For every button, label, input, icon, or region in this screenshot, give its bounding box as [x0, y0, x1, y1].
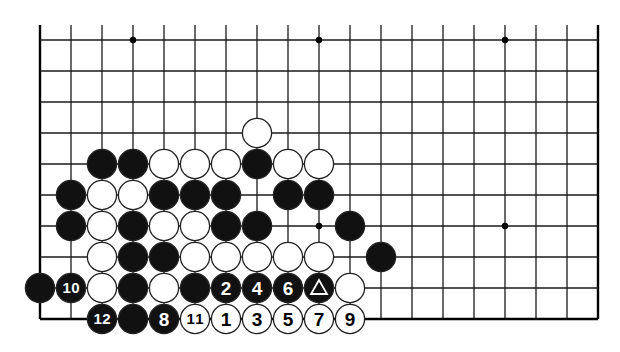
black-stone [180, 273, 209, 302]
stone-circle [335, 273, 364, 302]
move-number-label: 6 [283, 278, 294, 299]
white-stone [211, 242, 240, 271]
stone-circle [180, 180, 209, 209]
black-stone [335, 211, 364, 240]
black-stone [211, 211, 240, 240]
stone-circle [242, 118, 271, 147]
stone-circle [56, 211, 85, 240]
move-number-label: 9 [345, 309, 356, 330]
stone-circle [304, 149, 333, 178]
stone-circle [304, 273, 333, 302]
stone-circle [366, 242, 395, 271]
stone-circle [242, 211, 271, 240]
black-stone: 2 [211, 273, 240, 302]
stone-circle [273, 149, 302, 178]
stone-circle [149, 211, 178, 240]
move-number-label: 11 [187, 310, 204, 327]
white-stone: 7 [304, 304, 333, 333]
move-number-label: 7 [314, 309, 325, 330]
white-stone: 1 [211, 304, 240, 333]
white-stone [304, 242, 333, 271]
stone-circle [87, 242, 116, 271]
stone-circle [149, 149, 178, 178]
stone-circle [149, 180, 178, 209]
move-number-label: 3 [252, 309, 263, 330]
white-stone [180, 242, 209, 271]
white-stone [149, 273, 178, 302]
stone-circle [211, 242, 240, 271]
stone-circle [335, 211, 364, 240]
star-point [502, 37, 508, 43]
stone-circle [118, 211, 147, 240]
star-point [316, 37, 322, 43]
black-stone [87, 149, 116, 178]
white-stone [273, 149, 302, 178]
black-stone [118, 304, 147, 333]
move-number-label: 1 [221, 309, 232, 330]
black-stone [56, 211, 85, 240]
stone-circle [304, 180, 333, 209]
white-stone [149, 149, 178, 178]
white-stone [180, 211, 209, 240]
white-stone [87, 211, 116, 240]
black-stone: 8 [149, 304, 178, 333]
black-stone [118, 273, 147, 302]
stone-circle [180, 211, 209, 240]
black-stone: 10 [56, 273, 85, 302]
stone-circle [180, 273, 209, 302]
stone-circle [118, 242, 147, 271]
go-board-diagram: 102461281113579 [0, 0, 620, 352]
white-stone: 5 [273, 304, 302, 333]
black-stone [118, 242, 147, 271]
star-point [316, 223, 322, 229]
move-number-label: 4 [252, 278, 263, 299]
stone-circle [149, 242, 178, 271]
white-stone [87, 180, 116, 209]
stone-circle [180, 242, 209, 271]
white-stone [273, 242, 302, 271]
black-stone [118, 211, 147, 240]
stone-circle [118, 180, 147, 209]
stone-circle [242, 149, 271, 178]
move-number-label: 12 [94, 310, 111, 327]
stone-circle [304, 242, 333, 271]
white-stone: 11 [180, 304, 209, 333]
stone-circle [273, 180, 302, 209]
black-stone [25, 273, 54, 302]
stone-circle [211, 180, 240, 209]
black-stone [149, 242, 178, 271]
stone-circle [211, 149, 240, 178]
black-stone [366, 242, 395, 271]
stone-circle [87, 149, 116, 178]
white-stone [87, 242, 116, 271]
stone-circle [242, 242, 271, 271]
stone-circle [118, 149, 147, 178]
black-stone: 6 [273, 273, 302, 302]
white-stone: 3 [242, 304, 271, 333]
move-number-label: 5 [283, 309, 294, 330]
black-stone [211, 180, 240, 209]
stone-circle [118, 304, 147, 333]
stone-circle [56, 180, 85, 209]
white-stone [180, 149, 209, 178]
star-point [502, 223, 508, 229]
black-stone [180, 180, 209, 209]
stone-circle [273, 242, 302, 271]
black-stone [118, 149, 147, 178]
black-stone: 4 [242, 273, 271, 302]
black-stone [273, 180, 302, 209]
black-stone [242, 211, 271, 240]
star-point [130, 37, 136, 43]
stone-circle [180, 149, 209, 178]
black-stone [304, 180, 333, 209]
stone-circle [87, 273, 116, 302]
move-number-label: 10 [63, 279, 80, 296]
white-stone [242, 242, 271, 271]
white-stone [335, 273, 364, 302]
stone-circle [149, 273, 178, 302]
white-stone [149, 211, 178, 240]
white-stone: 9 [335, 304, 364, 333]
move-number-label: 2 [221, 278, 232, 299]
black-stone [304, 273, 333, 302]
white-stone [211, 149, 240, 178]
